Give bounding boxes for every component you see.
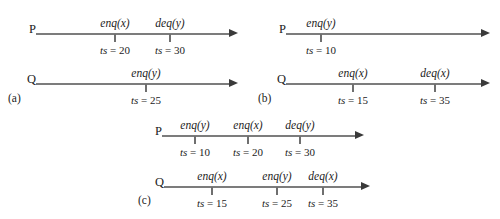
timestamp-value: 20 (252, 146, 263, 158)
tick-mark (194, 136, 195, 144)
operation-label: enq(y) (180, 119, 209, 131)
timestamp-label: ts = 30 (285, 146, 315, 158)
timestamp-value: 10 (199, 146, 210, 158)
panel-c: Penq(y)ts = 10enq(x)ts = 20deq(y)ts = 30… (0, 0, 500, 219)
timestamp-label: ts = 20 (233, 146, 263, 158)
timestamp-value: 25 (281, 197, 292, 209)
operation-label: enq(x) (233, 119, 262, 131)
process-timeline-figure: Penq(x)ts = 20deq(y)ts = 30Qenq(y)ts = 2… (0, 0, 500, 219)
timestamp-value: 30 (304, 146, 315, 158)
tick-mark (299, 136, 300, 144)
timestamp-value: 15 (216, 197, 227, 209)
arrow-head-icon (361, 182, 370, 190)
panel-caption-c: (c) (138, 194, 151, 206)
timestamp-separator: = (292, 146, 304, 158)
process-label-c-P: P (146, 125, 162, 138)
timestamp-separator: = (315, 197, 327, 209)
operation-label: deq(x) (308, 170, 337, 182)
process-label-c-Q: Q (148, 176, 164, 189)
timestamp-label: ts = 25 (262, 197, 292, 209)
timestamp-label: ts = 15 (197, 197, 227, 209)
operation-label: enq(y) (262, 170, 291, 182)
tick-mark (211, 187, 212, 195)
tick-mark (322, 187, 323, 195)
operation-label: enq(x) (197, 170, 226, 182)
tick-mark (247, 136, 248, 144)
timestamp-separator: = (204, 197, 216, 209)
timestamp-separator: = (187, 146, 199, 158)
axis-line (162, 135, 355, 137)
timestamp-separator: = (240, 146, 252, 158)
timestamp-label: ts = 35 (308, 197, 338, 209)
axis-line (164, 186, 361, 188)
timestamp-label: ts = 10 (180, 146, 210, 158)
arrow-head-icon (355, 131, 364, 139)
tick-mark (276, 187, 277, 195)
timestamp-separator: = (269, 197, 281, 209)
operation-label: deq(y) (285, 119, 314, 131)
timestamp-value: 35 (327, 197, 338, 209)
